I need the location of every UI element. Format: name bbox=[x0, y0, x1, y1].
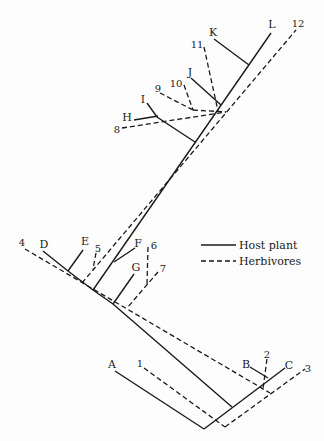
taxon-label-a: A bbox=[107, 358, 117, 371]
branch-6 bbox=[147, 247, 148, 284]
legend-label-herbivores: Herbivores bbox=[239, 255, 302, 268]
taxon-label-l: L bbox=[268, 18, 276, 31]
taxon-label-6: 6 bbox=[151, 240, 157, 251]
taxon-label-12: 12 bbox=[292, 18, 305, 29]
branch-k bbox=[214, 39, 249, 65]
branch-2 bbox=[263, 359, 267, 389]
herbivore-tree bbox=[25, 30, 305, 427]
taxon-label-11: 11 bbox=[191, 39, 204, 50]
legend-item-host-plant: Host plant bbox=[201, 239, 298, 252]
taxon-label-7: 7 bbox=[160, 263, 166, 274]
taxon-label-j: J bbox=[187, 66, 192, 79]
taxon-label-e: E bbox=[81, 235, 89, 248]
legend: Host plant Herbivores bbox=[201, 239, 302, 268]
taxon-label-b: B bbox=[242, 358, 250, 371]
taxon-label-2: 2 bbox=[264, 349, 270, 360]
taxon-label-10: 10 bbox=[170, 78, 183, 89]
branch-e bbox=[68, 250, 83, 271]
branch-j bbox=[191, 78, 221, 105]
host-plant-labels: A B C D E F G H I J K L bbox=[40, 18, 294, 372]
taxon-label-8: 8 bbox=[114, 124, 120, 135]
taxon-label-9: 9 bbox=[155, 83, 161, 94]
taxon-label-i: I bbox=[141, 93, 145, 106]
taxon-label-4: 4 bbox=[19, 237, 25, 248]
legend-item-herbivores: Herbivores bbox=[201, 255, 302, 268]
taxon-label-3: 3 bbox=[305, 363, 311, 374]
cophylogeny-diagram: A B C D E F G H I J K L 1 2 3 4 5 6 7 8 … bbox=[0, 0, 324, 441]
taxon-label-c: C bbox=[285, 359, 293, 372]
branch-4-lineage bbox=[25, 249, 270, 393]
taxon-label-k: K bbox=[209, 26, 218, 39]
branch-d-lineage bbox=[43, 251, 232, 407]
branch-11 bbox=[204, 47, 218, 111]
branch-h bbox=[134, 116, 158, 120]
branch-5 bbox=[93, 253, 96, 269]
herbivore-labels: 1 2 3 4 5 6 7 8 9 10 11 12 bbox=[19, 18, 311, 374]
taxon-label-g: G bbox=[132, 261, 141, 274]
taxon-label-d: D bbox=[40, 238, 49, 251]
branch-9-10-node bbox=[193, 110, 226, 112]
taxon-label-5: 5 bbox=[95, 243, 101, 254]
taxon-label-f: F bbox=[134, 237, 142, 250]
taxon-label-1: 1 bbox=[137, 358, 143, 369]
legend-label-host-plant: Host plant bbox=[239, 239, 298, 252]
taxon-label-h: H bbox=[122, 111, 132, 124]
branch-g bbox=[113, 274, 134, 304]
